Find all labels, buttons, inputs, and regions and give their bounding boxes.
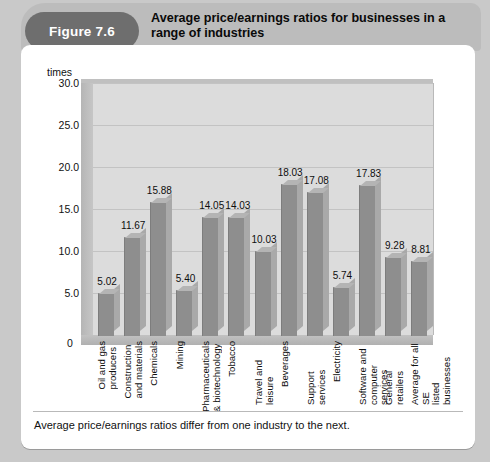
gridline bbox=[93, 209, 433, 210]
x-axis-category-label: Construction and materials bbox=[123, 341, 144, 399]
bar bbox=[359, 185, 375, 336]
gridline bbox=[93, 83, 433, 84]
y-axis-tick-label: 10.0 bbox=[33, 245, 79, 257]
y-axis-origin-label: 0 bbox=[67, 337, 73, 349]
bar-side-face bbox=[244, 208, 250, 331]
x-axis-category-label: Pharmaceuticals & biotechnology bbox=[201, 341, 222, 412]
bar bbox=[176, 290, 192, 336]
y-axis-tick-label: 30.0 bbox=[33, 77, 79, 89]
x-axis-category-label: Tobacco bbox=[227, 341, 238, 377]
bar-value-label: 8.81 bbox=[411, 244, 430, 255]
bar bbox=[307, 192, 323, 336]
figure-panel: times 30.025.020.015.010.05.0 0 5.0211.6… bbox=[21, 45, 475, 449]
x-axis-category-label: Electricity bbox=[332, 341, 343, 382]
x-axis-category-label: Support services bbox=[306, 341, 327, 405]
bar bbox=[255, 251, 271, 336]
y-axis-tick-label: 25.0 bbox=[33, 119, 79, 131]
gridline bbox=[93, 167, 433, 168]
bar bbox=[411, 261, 427, 336]
y-axis-tick-label: 5.0 bbox=[33, 287, 79, 299]
bar bbox=[124, 237, 140, 336]
bar-value-label: 5.02 bbox=[97, 276, 116, 287]
plot-left-wall bbox=[81, 83, 93, 335]
bar-value-label: 18.03 bbox=[278, 167, 303, 178]
bar bbox=[98, 293, 114, 336]
bar-value-label: 9.28 bbox=[385, 240, 404, 251]
bar-side-face bbox=[271, 242, 277, 331]
bar-side-face bbox=[401, 248, 407, 331]
bar bbox=[281, 184, 297, 336]
bar-value-label: 11.67 bbox=[121, 220, 145, 231]
bar-value-label: 14.03 bbox=[225, 200, 250, 211]
bar bbox=[333, 287, 349, 336]
bar-value-label: 17.08 bbox=[304, 175, 329, 186]
gridline bbox=[93, 125, 433, 126]
bar-side-face bbox=[323, 182, 329, 331]
bar bbox=[202, 217, 218, 336]
bar-side-face bbox=[427, 252, 433, 331]
y-axis-tick-label: 20.0 bbox=[33, 161, 79, 173]
figure-container: Figure 7.6 Average price/earnings ratios… bbox=[7, 3, 481, 455]
bar-value-label: 15.88 bbox=[147, 185, 172, 196]
x-axis-category-label: Average for all SE listed businesses bbox=[410, 341, 452, 405]
bar-value-label: 14.05 bbox=[199, 200, 224, 211]
bar bbox=[385, 257, 401, 336]
bar-side-face bbox=[218, 208, 224, 331]
bar bbox=[228, 217, 244, 336]
bar-value-label: 10.03 bbox=[251, 234, 276, 245]
y-axis: 30.025.020.015.010.05.0 bbox=[21, 83, 79, 335]
bar-side-face bbox=[375, 176, 381, 331]
x-axis-category-label: Chemicals bbox=[149, 341, 160, 386]
caption-divider bbox=[33, 411, 463, 412]
figure-caption: Average price/earnings ratios differ fro… bbox=[34, 419, 464, 431]
x-axis-category-label: Oil and gas producers bbox=[97, 341, 118, 390]
x-axis-category-label: Beverages bbox=[280, 341, 291, 387]
bar-side-face bbox=[166, 193, 172, 331]
bar-value-label: 5.74 bbox=[333, 270, 352, 281]
bar-side-face bbox=[140, 228, 146, 331]
bar-value-label: 17.83 bbox=[356, 168, 381, 179]
x-axis-category-label: Travel and leisure bbox=[254, 341, 275, 405]
bar-side-face bbox=[297, 175, 303, 331]
bar bbox=[150, 202, 166, 336]
x-axis-category-label: General retailers bbox=[384, 341, 405, 405]
x-axis-category-label: Mining bbox=[175, 341, 186, 369]
bar-chart: times 30.025.020.015.010.05.0 0 5.0211.6… bbox=[21, 45, 475, 405]
y-axis-tick-label: 15.0 bbox=[33, 203, 79, 215]
bar-value-label: 5.40 bbox=[176, 273, 195, 284]
figure-title: Average price/earnings ratios for busine… bbox=[151, 11, 471, 41]
